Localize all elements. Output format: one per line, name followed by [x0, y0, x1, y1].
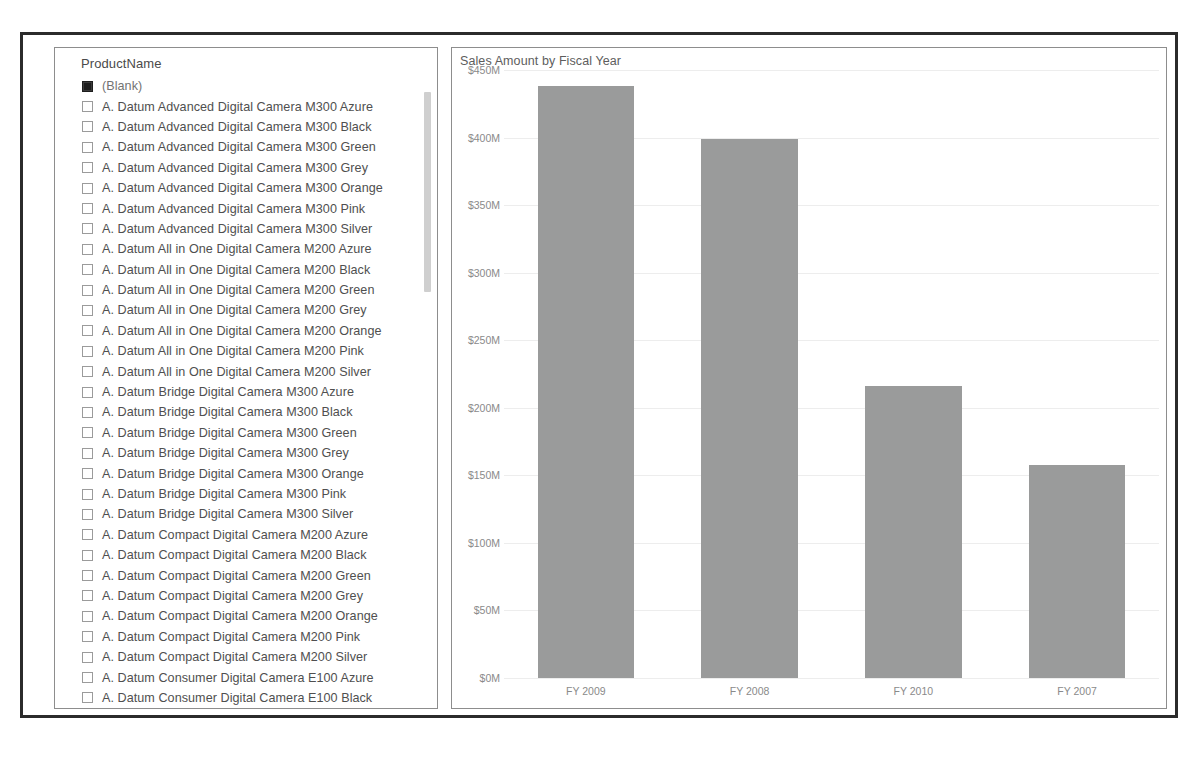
slicer-item[interactable]: A. Datum Compact Digital Camera M200 Sil…: [55, 647, 437, 667]
checkbox-icon[interactable]: [82, 590, 93, 601]
y-axis-tick-label: $50M: [474, 604, 500, 616]
checkbox-icon[interactable]: [82, 407, 93, 418]
slicer-item-label: A. Datum Consumer Digital Camera E100 Az…: [102, 671, 374, 685]
slicer-item-label: A. Datum Bridge Digital Camera M300 Silv…: [102, 507, 353, 521]
slicer-item[interactable]: A. Datum Advanced Digital Camera M300 Az…: [55, 96, 437, 116]
checkbox-icon[interactable]: [82, 509, 93, 520]
checkbox-icon[interactable]: [82, 325, 93, 336]
slicer-item[interactable]: A. Datum Advanced Digital Camera M300 Or…: [55, 178, 437, 198]
slicer-item-label: A. Datum Compact Digital Camera M200 Pin…: [102, 630, 360, 644]
slicer-item[interactable]: A. Datum All in One Digital Camera M200 …: [55, 300, 437, 320]
bar[interactable]: [865, 386, 962, 678]
slicer-item[interactable]: A. Datum Compact Digital Camera M200 Gre…: [55, 586, 437, 606]
slicer-item-label: A. Datum Bridge Digital Camera M300 Gree…: [102, 426, 357, 440]
checkbox-icon[interactable]: [82, 142, 93, 153]
slicer-item[interactable]: A. Datum All in One Digital Camera M200 …: [55, 341, 437, 361]
bar[interactable]: [538, 86, 635, 678]
y-axis-tick-label: $300M: [468, 267, 500, 279]
product-name-slicer[interactable]: ProductName (Blank)A. Datum Advanced Dig…: [54, 47, 438, 709]
checkbox-icon[interactable]: [82, 121, 93, 132]
slicer-item-label: A. Datum Compact Digital Camera M200 Ora…: [102, 609, 378, 623]
slicer-item-label: A. Datum Bridge Digital Camera M300 Pink: [102, 487, 346, 501]
checkbox-icon[interactable]: [82, 223, 93, 234]
checkbox-icon[interactable]: [82, 652, 93, 663]
slicer-item[interactable]: A. Datum Compact Digital Camera M200 Azu…: [55, 525, 437, 545]
slicer-item[interactable]: A. Datum All in One Digital Camera M200 …: [55, 361, 437, 381]
scrollbar-thumb[interactable]: [424, 92, 431, 292]
y-axis-tick-label: $200M: [468, 402, 500, 414]
slicer-title: ProductName: [81, 56, 162, 71]
slicer-item[interactable]: A. Datum Compact Digital Camera M200 Pin…: [55, 627, 437, 647]
slicer-item-label: A. Datum Compact Digital Camera M200 Gre…: [102, 589, 363, 603]
checkbox-icon[interactable]: [82, 570, 93, 581]
checkbox-icon[interactable]: [82, 346, 93, 357]
checkbox-icon[interactable]: [82, 264, 93, 275]
slicer-scrollbar[interactable]: [424, 78, 431, 698]
checkbox-icon[interactable]: [82, 387, 93, 398]
slicer-item-label: A. Datum Compact Digital Camera M200 Sil…: [102, 650, 367, 664]
slicer-item-label: A. Datum All in One Digital Camera M200 …: [102, 263, 370, 277]
slicer-item-label: A. Datum Advanced Digital Camera M300 Az…: [102, 100, 373, 114]
slicer-item[interactable]: A. Datum Advanced Digital Camera M300 Gr…: [55, 137, 437, 157]
bar[interactable]: [701, 139, 798, 678]
checkbox-icon[interactable]: [82, 489, 93, 500]
y-axis-tick-label: $100M: [468, 537, 500, 549]
slicer-item[interactable]: A. Datum Compact Digital Camera M200 Bla…: [55, 545, 437, 565]
checkbox-icon[interactable]: [82, 448, 93, 459]
slicer-item[interactable]: A. Datum All in One Digital Camera M200 …: [55, 321, 437, 341]
sales-amount-bar-chart[interactable]: Sales Amount by Fiscal Year $0M$50M$100M…: [451, 47, 1167, 709]
slicer-item-label: A. Datum Consumer Digital Camera E100 Bl…: [102, 691, 372, 705]
checkbox-icon[interactable]: [82, 203, 93, 214]
x-axis-tick-label: FY 2009: [566, 685, 606, 697]
checkbox-icon[interactable]: [82, 692, 93, 703]
slicer-item[interactable]: A. Datum Compact Digital Camera M200 Ora…: [55, 606, 437, 626]
slicer-item[interactable]: A. Datum Bridge Digital Camera M300 Grey: [55, 443, 437, 463]
slicer-item[interactable]: A. Datum Consumer Digital Camera E100 Bl…: [55, 688, 437, 708]
slicer-item[interactable]: A. Datum Bridge Digital Camera M300 Blac…: [55, 402, 437, 422]
checkbox-icon[interactable]: [82, 468, 93, 479]
y-axis-tick-label: $150M: [468, 469, 500, 481]
slicer-item-label: A. Datum All in One Digital Camera M200 …: [102, 324, 382, 338]
checkbox-icon[interactable]: [82, 427, 93, 438]
slicer-item-label: A. Datum Advanced Digital Camera M300 Si…: [102, 222, 372, 236]
checkbox-icon[interactable]: [82, 631, 93, 642]
checkbox-icon[interactable]: [82, 305, 93, 316]
slicer-item[interactable]: A. Datum Advanced Digital Camera M300 Pi…: [55, 198, 437, 218]
slicer-item[interactable]: A. Datum All in One Digital Camera M200 …: [55, 280, 437, 300]
checkbox-icon[interactable]: [82, 550, 93, 561]
checkbox-icon[interactable]: [82, 529, 93, 540]
slicer-item[interactable]: A. Datum All in One Digital Camera M200 …: [55, 260, 437, 280]
checkbox-icon[interactable]: [82, 183, 93, 194]
slicer-item[interactable]: A. Datum Compact Digital Camera M200 Gre…: [55, 565, 437, 585]
slicer-item[interactable]: A. Datum Advanced Digital Camera M300 Bl…: [55, 117, 437, 137]
checkbox-icon[interactable]: [82, 244, 93, 255]
y-axis-tick-label: $400M: [468, 132, 500, 144]
slicer-item[interactable]: A. Datum Bridge Digital Camera M300 Gree…: [55, 423, 437, 443]
slicer-item-list[interactable]: (Blank)A. Datum Advanced Digital Camera …: [55, 76, 437, 708]
slicer-item[interactable]: A. Datum Bridge Digital Camera M300 Pink: [55, 484, 437, 504]
checkbox-icon[interactable]: [82, 366, 93, 377]
bar-series[interactable]: [504, 70, 1159, 678]
slicer-item[interactable]: A. Datum Bridge Digital Camera M300 Oran…: [55, 463, 437, 483]
plot-area: [504, 70, 1159, 678]
slicer-item-label: A. Datum Compact Digital Camera M200 Bla…: [102, 548, 367, 562]
checkbox-icon[interactable]: [82, 611, 93, 622]
x-axis: FY 2009FY 2008FY 2010FY 2007: [504, 678, 1159, 706]
slicer-item[interactable]: A. Datum Bridge Digital Camera M300 Azur…: [55, 382, 437, 402]
slicer-item[interactable]: A. Datum All in One Digital Camera M200 …: [55, 239, 437, 259]
slicer-item-label: A. Datum Bridge Digital Camera M300 Azur…: [102, 385, 354, 399]
checkbox-icon[interactable]: [82, 101, 93, 112]
checkbox-checked-icon[interactable]: [82, 81, 93, 92]
report-canvas: ProductName (Blank)A. Datum Advanced Dig…: [20, 32, 1178, 718]
slicer-item[interactable]: A. Datum Bridge Digital Camera M300 Silv…: [55, 504, 437, 524]
checkbox-icon[interactable]: [82, 162, 93, 173]
slicer-item-label: A. Datum Advanced Digital Camera M300 Bl…: [102, 120, 372, 134]
slicer-item-label: A. Datum Advanced Digital Camera M300 Pi…: [102, 202, 365, 216]
checkbox-icon[interactable]: [82, 285, 93, 296]
slicer-item[interactable]: A. Datum Advanced Digital Camera M300 Gr…: [55, 158, 437, 178]
slicer-item[interactable]: A. Datum Advanced Digital Camera M300 Si…: [55, 219, 437, 239]
slicer-item[interactable]: A. Datum Consumer Digital Camera E100 Az…: [55, 667, 437, 687]
slicer-item[interactable]: (Blank): [55, 76, 437, 96]
bar[interactable]: [1029, 465, 1126, 678]
checkbox-icon[interactable]: [82, 672, 93, 683]
